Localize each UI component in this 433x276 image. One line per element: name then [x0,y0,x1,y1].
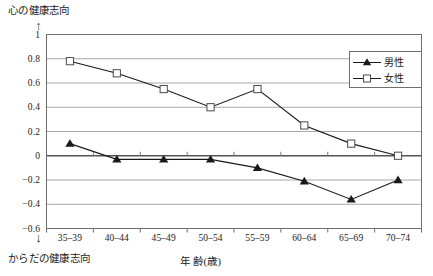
data-point [301,122,308,129]
data-point [394,152,401,159]
legend-item-female: 女性 [350,70,423,87]
data-point [160,85,167,92]
data-point [254,85,261,92]
legend-symbol-open-square-icon [350,70,384,87]
y-axis-tick-label: 0.2 [0,127,40,137]
data-point [348,140,355,147]
x-axis-tick-label: 70–74 [370,233,426,244]
legend-label-male: 男性 [384,57,405,69]
y-axis-tick-label: 0 [0,151,40,161]
y-axis-tick-label: 0.6 [0,78,40,88]
y-axis-tick-label: −0.6 [0,224,40,234]
legend-item-male: 男性 [350,54,423,71]
y-axis-tick-label: 1 [0,30,40,40]
data-point [66,58,73,65]
y-axis-tick-label: 0.4 [0,102,40,112]
legend-symbol-filled-triangle-icon [350,54,384,71]
legend: 男性 女性 [349,51,422,88]
y-axis-tick-label: 0.8 [0,54,40,64]
y-axis-tick-label: −0.2 [0,175,40,185]
data-point [113,70,120,77]
data-point [347,195,356,203]
data-point [207,104,214,111]
y-axis-tick-label: −0.4 [0,199,40,209]
data-point [65,139,74,147]
data-point [393,176,402,184]
chart-figure: 心の健康志向 ↑ ↓ からだの健康志向 年 齢(歳) 10.80.60.40.2… [0,0,433,276]
legend-label-female: 女性 [384,73,405,85]
